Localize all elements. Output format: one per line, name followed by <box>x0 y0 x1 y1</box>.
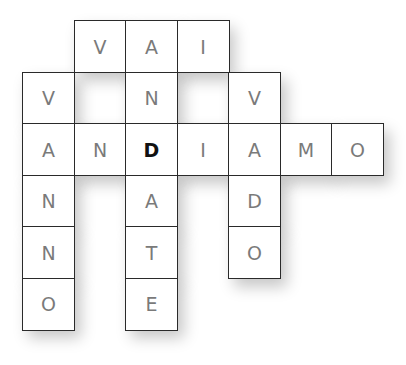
crossword-cell[interactable]: O <box>331 123 384 176</box>
crossword-cell[interactable]: O <box>22 278 75 331</box>
crossword-cell[interactable]: D <box>228 175 281 228</box>
crossword-cell[interactable]: A <box>125 20 178 73</box>
crossword-cell[interactable]: E <box>125 278 178 331</box>
crossword-cell[interactable]: T <box>125 226 178 279</box>
crossword-cell[interactable]: I <box>177 123 230 176</box>
crossword-cell[interactable]: N <box>22 175 75 228</box>
crossword-cell[interactable]: A <box>22 123 75 176</box>
crossword-cell[interactable]: V <box>22 72 75 125</box>
crossword-cell[interactable]: N <box>22 226 75 279</box>
crossword-cell[interactable]: V <box>228 72 281 125</box>
crossword-cell[interactable]: V <box>74 20 127 73</box>
crossword-grid: VAIVNVANDIAMONADNTOOE <box>0 0 406 365</box>
crossword-cell[interactable]: O <box>228 226 281 279</box>
crossword-cell[interactable]: A <box>125 175 178 228</box>
crossword-cell[interactable]: N <box>125 72 178 125</box>
crossword-cell[interactable]: A <box>228 123 281 176</box>
crossword-cell-highlighted[interactable]: D <box>125 123 178 176</box>
crossword-cell[interactable]: N <box>74 123 127 176</box>
crossword-cell[interactable]: I <box>177 20 230 73</box>
crossword-cell[interactable]: M <box>280 123 333 176</box>
